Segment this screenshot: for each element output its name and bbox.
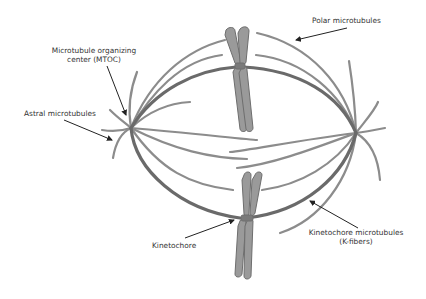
arrow-mtoc [107,66,126,115]
label-mtoc-line2: center (MTOC) [44,55,144,64]
label-kfibers-line2: (K-fibers) [306,237,406,246]
lower-chromosome [235,172,262,279]
label-mtoc: Microtubule organizing center (MTOC) [44,46,144,64]
label-polar-microtubules: Polar microtubules [312,16,381,25]
label-kfibers-line1: Kinetochore microtubules [306,228,406,237]
arrow-kinetochore [185,220,234,238]
label-kinetochore-microtubules: Kinetochore microtubules (K-fibers) [306,228,406,246]
arrow-kfibers [310,201,358,228]
upper-chromosome [225,27,253,132]
label-mtoc-line1: Microtubule organizing [44,46,144,55]
label-kinetochore: Kinetochore [152,241,196,250]
mitotic-spindle-diagram [0,0,426,299]
label-astral-microtubules: Astral microtubules [24,109,96,118]
arrow-polar [296,28,347,40]
